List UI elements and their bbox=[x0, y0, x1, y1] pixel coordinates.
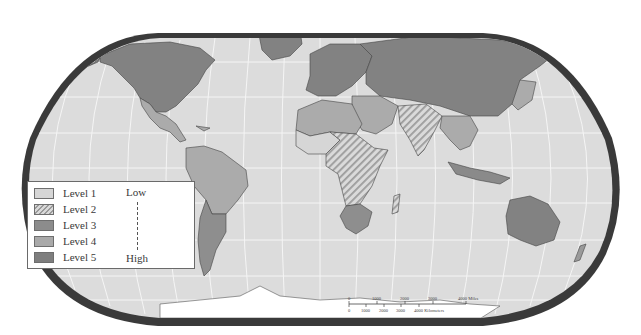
legend-item-level-3: Level 3 bbox=[34, 218, 96, 232]
legend-item-level-4: Level 4 bbox=[34, 234, 96, 248]
scale-km-4000: 4000 Kilometers bbox=[414, 308, 444, 313]
scale-miles-2000: 2000 bbox=[400, 296, 410, 301]
legend-swatch-level-4 bbox=[34, 236, 54, 247]
legend-swatch-level-5 bbox=[34, 252, 54, 263]
scale-miles-3000: 3000 bbox=[428, 296, 438, 301]
legend-label: Level 4 bbox=[63, 235, 96, 247]
legend-label: Level 2 bbox=[63, 203, 96, 215]
scale-miles-4000: 4000 Miles bbox=[458, 296, 479, 301]
legend-label: Level 5 bbox=[63, 251, 96, 263]
scale-km-2000: 2000 bbox=[379, 308, 389, 313]
legend-label: Level 3 bbox=[63, 219, 96, 231]
legend-item-level-2: Level 2 bbox=[34, 202, 96, 216]
legend-swatch-level-2 bbox=[34, 204, 54, 215]
map-legend: Level 1 Level 2 Level 3 Level 4 Level 5 … bbox=[27, 181, 195, 269]
legend-high-label: High bbox=[126, 252, 148, 264]
scale-km-1000: 1000 bbox=[361, 308, 371, 313]
scale-miles-1000: 1000 bbox=[372, 296, 382, 301]
legend-label: Level 1 bbox=[63, 187, 96, 199]
scale-km-3000: 3000 bbox=[396, 308, 406, 313]
world-map: 0 1000 2000 3000 4000 Miles 0 1000 2000 … bbox=[0, 0, 641, 335]
legend-swatch-level-3 bbox=[34, 220, 54, 231]
legend-item-level-5: Level 5 bbox=[34, 250, 96, 264]
legend-scale-line bbox=[137, 202, 138, 250]
legend-swatch-level-1 bbox=[34, 188, 54, 199]
legend-item-level-1: Level 1 bbox=[34, 186, 96, 200]
legend-low-label: Low bbox=[126, 186, 146, 198]
